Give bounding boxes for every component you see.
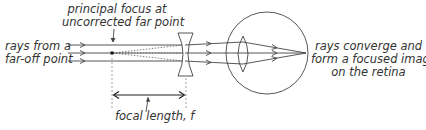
- focal-length-arrow: [114, 92, 185, 99]
- rays-converge-label-line3: on the retina: [311, 66, 426, 79]
- eye-lens-icon: [238, 36, 248, 72]
- rays-from-label-line2: far-off point: [5, 53, 73, 66]
- focal-length-label: focal length, f: [115, 110, 194, 123]
- focus-pointer-arrow: [111, 29, 115, 42]
- principal-focus-label-line2: uncorrected far point: [62, 16, 172, 29]
- rays-from-label: rays from a far-off point: [5, 40, 73, 66]
- principal-focus-label: principal focus at uncorrected far point: [62, 3, 172, 29]
- diverging-lens-icon: [178, 33, 193, 76]
- focal-length-label-text: focal length, f: [115, 109, 194, 123]
- converging-rays: [243, 42, 306, 64]
- focal-length-guides: [112, 58, 186, 110]
- diverged-rays: [185, 42, 243, 65]
- rays-converge-label: rays converge and form a focused image o…: [311, 40, 426, 79]
- principal-focus-point: [111, 52, 114, 55]
